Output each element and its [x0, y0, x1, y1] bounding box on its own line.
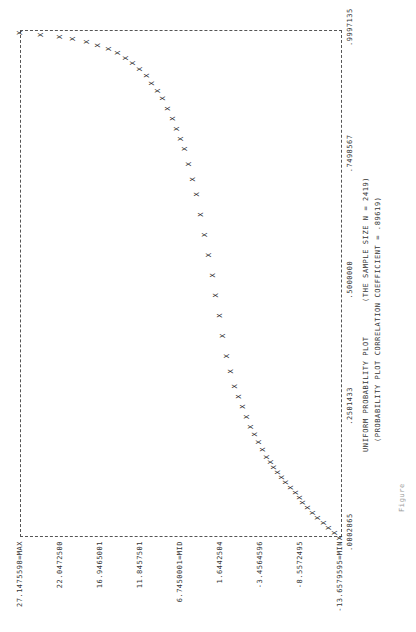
data-point: X	[244, 415, 251, 419]
data-point: X	[137, 67, 144, 71]
data-point: X	[123, 56, 130, 60]
plot-title: UNIFORM PROBABILITY PLOT	[362, 336, 370, 452]
data-point: X	[264, 455, 271, 459]
data-point: X	[279, 475, 286, 479]
data-point: X	[155, 89, 162, 93]
data-point: X	[293, 490, 300, 494]
data-point: X	[213, 293, 220, 297]
data-point: X	[240, 405, 247, 409]
x-tick-label: .5000000	[346, 261, 354, 299]
data-point: X	[256, 440, 263, 444]
data-point: X	[198, 213, 205, 217]
data-point: X	[283, 480, 290, 484]
data-point: X	[57, 35, 64, 39]
data-point: X	[160, 96, 167, 100]
plot-frame	[20, 30, 342, 537]
y-tick-label: 22.0472500	[56, 541, 64, 588]
data-point: X	[170, 117, 177, 121]
data-point: X	[95, 43, 102, 47]
x-tick-label: .9997135	[346, 8, 354, 46]
data-point: X	[224, 354, 231, 358]
y-tick-label: -13.6579595=MIN	[336, 541, 344, 612]
data-point: X	[300, 501, 307, 505]
data-point: X	[182, 147, 189, 151]
data-point: X	[149, 81, 156, 85]
data-point: X	[106, 47, 113, 51]
y-tick-label: 6.7450001=MID	[176, 541, 184, 602]
data-point: X	[84, 40, 91, 44]
plot-stage: 27.1475598=MAX22.047250016.946500111.845…	[0, 0, 416, 632]
data-point: X	[202, 233, 209, 237]
data-point: X	[144, 74, 151, 78]
data-point: X	[315, 516, 322, 520]
data-point: X	[232, 384, 239, 388]
data-point: X	[165, 106, 172, 110]
y-tick-label: 16.9465001	[96, 541, 104, 588]
x-tick-label: .2501433	[346, 387, 354, 425]
plot-annotation: (PROBABILITY PLOT CORRELATION COEFFICIEN…	[374, 196, 382, 442]
data-point: X	[186, 162, 193, 166]
data-point: X	[194, 192, 201, 196]
data-point: X	[174, 127, 181, 131]
data-point: X	[70, 37, 77, 41]
data-point: X	[228, 369, 235, 373]
y-tick-label: -3.4564596	[256, 541, 264, 588]
data-point: X	[305, 506, 312, 510]
data-point: X	[271, 465, 278, 469]
data-point: X	[130, 61, 137, 65]
data-point: X	[337, 536, 344, 540]
data-point: X	[220, 334, 227, 338]
y-tick-label: -8.5572495	[296, 541, 304, 588]
data-point: X	[248, 425, 255, 429]
data-point: X	[236, 394, 243, 398]
x-tick-label: .0002865	[346, 513, 354, 551]
data-point: X	[115, 51, 122, 55]
data-point: X	[321, 521, 328, 525]
data-point: X	[178, 137, 185, 141]
data-point: X	[326, 526, 333, 530]
data-point: X	[190, 177, 197, 181]
plot-subtitle: (THE SAMPLE SIZE N = 2419)	[362, 177, 370, 302]
x-tick-label: .7498567	[346, 135, 354, 173]
data-point: X	[210, 273, 217, 277]
data-point: X	[260, 448, 267, 452]
figure-caption: Figure	[398, 483, 406, 512]
y-tick-label: 11.8457501	[136, 541, 144, 588]
data-point: X	[38, 33, 45, 37]
data-point: X	[297, 496, 304, 500]
y-tick-label: 27.1475598=MAX	[16, 541, 24, 607]
data-point: X	[17, 31, 24, 35]
data-point: X	[217, 314, 224, 318]
data-point: X	[252, 432, 259, 436]
data-point: X	[332, 531, 339, 535]
data-point: X	[288, 485, 295, 489]
data-point: X	[206, 253, 213, 257]
data-point: X	[275, 470, 282, 474]
data-point: X	[268, 460, 275, 464]
y-tick-label: 1.6442504	[216, 541, 224, 583]
data-point: X	[310, 511, 317, 515]
